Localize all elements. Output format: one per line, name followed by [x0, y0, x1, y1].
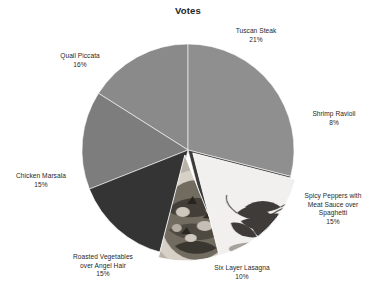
pie-slices: [82, 44, 296, 261]
slice-label-six-layer-lasagna: Six Layer Lasagna 10%: [196, 264, 288, 281]
slice-label-shrimp-ravioli: Shrimp Ravioli 8%: [296, 110, 372, 127]
slice-label-quail-piccata: Quail Piccata 16%: [38, 52, 122, 69]
pie-chart-figure: Votes: [0, 0, 376, 291]
pie-chart-graphic: [0, 0, 376, 291]
slice-label-spicy-peppers: Spicy Peppers with Meat Sauce over Spagh…: [290, 192, 376, 226]
slice-label-chicken-marsala: Chicken Marsala 15%: [2, 172, 80, 189]
slice-label-tuscan-steak: Tuscan Steak 21%: [214, 27, 298, 44]
slice-label-roasted-vegetables: Roasted Vegetables over Angel Hair 15%: [54, 253, 152, 279]
